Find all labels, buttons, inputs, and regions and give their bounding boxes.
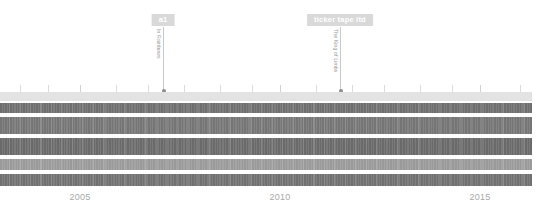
axis-tick — [452, 85, 453, 92]
series-band — [0, 117, 532, 134]
axis-tick — [184, 85, 185, 92]
series-band — [0, 92, 532, 101]
axis-tick — [20, 85, 21, 92]
annotation-badge[interactable]: ticker tape ltd — [307, 14, 373, 26]
series-band — [0, 138, 532, 155]
axis-tick — [148, 85, 149, 92]
axis-tick — [352, 85, 353, 92]
plot-area — [0, 92, 532, 186]
band-texture-coarse — [0, 138, 532, 155]
x-axis-label: 2010 — [269, 192, 290, 202]
chart-root: a1In Rainbowsticker tape ltdThe King of … — [0, 0, 548, 218]
series-band — [0, 159, 532, 170]
band-texture-coarse — [0, 103, 532, 113]
band-texture-coarse — [0, 117, 532, 134]
axis-tick — [520, 85, 521, 92]
band-texture-coarse — [0, 174, 532, 186]
x-axis-label: 2015 — [469, 192, 490, 202]
axis-tick — [220, 85, 221, 92]
series-band — [0, 174, 532, 186]
band-texture-coarse — [0, 159, 532, 170]
axis-tick — [420, 85, 421, 92]
axis-tick — [48, 85, 49, 92]
annotation-leader-line — [163, 27, 164, 91]
axis-tick — [384, 85, 385, 92]
x-axis-label: 2005 — [69, 192, 90, 202]
axis-tick — [116, 85, 117, 92]
annotation-caption: In Rainbows — [156, 29, 162, 59]
annotation-leader-line — [340, 27, 341, 91]
axis-tick — [252, 85, 253, 92]
axis-tick — [316, 85, 317, 92]
series-band — [0, 103, 532, 113]
annotation-badge[interactable]: a1 — [152, 14, 175, 26]
annotation-caption: The King of Limbs — [333, 29, 339, 73]
